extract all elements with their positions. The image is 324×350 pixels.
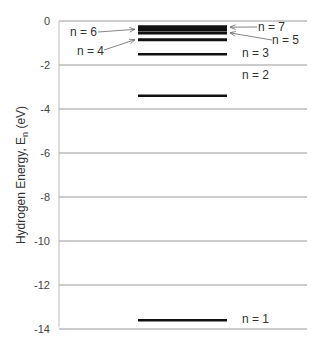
y-tick-label: 0	[44, 15, 50, 27]
level-labels: n = 1n = 2n = 3n = 7n = 5n = 6n = 4	[70, 20, 299, 326]
y-axis-label-subscript: n	[20, 132, 30, 137]
level-label-n4: n = 4	[77, 44, 104, 58]
level-label-n7: n = 7	[258, 20, 285, 34]
level-label-n2: n = 2	[242, 68, 269, 82]
y-tick-label: -6	[40, 147, 50, 159]
gridlines	[59, 21, 307, 329]
y-tick-label: -8	[40, 191, 50, 203]
y-tick-label: -10	[34, 235, 50, 247]
energy-levels	[138, 27, 227, 320]
energy-level-chart: 0-2-4-6-8-10-12-14 n = 1n = 2n = 3n = 7n…	[0, 0, 324, 350]
y-tick-label: -4	[40, 103, 50, 115]
arrow-line	[98, 29, 135, 32]
y-axis-label-text: Hydrogen Energy, E	[14, 137, 28, 244]
level-label-n6: n = 6	[70, 25, 97, 39]
level-label-n3: n = 3	[242, 46, 269, 60]
arrow-line	[104, 40, 135, 50]
level-label-n1: n = 1	[242, 312, 269, 326]
y-axis-label: Hydrogen Energy, En (eV)	[14, 106, 30, 244]
y-tick-label: -12	[34, 279, 50, 291]
level-label-n5: n = 5	[272, 33, 299, 47]
y-axis-label-unit: (eV)	[14, 106, 28, 132]
y-tick-labels: 0-2-4-6-8-10-12-14	[34, 15, 50, 335]
y-tick-label: -2	[40, 59, 50, 71]
y-tick-label: -14	[34, 323, 50, 335]
